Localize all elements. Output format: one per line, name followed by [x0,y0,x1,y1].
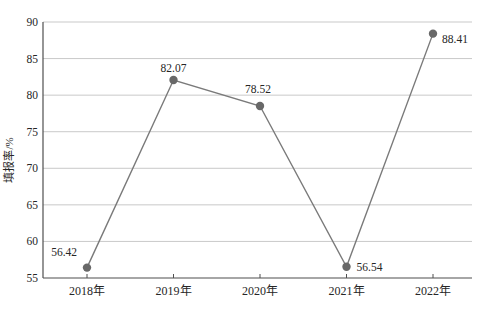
x-tick-label: 2022年 [415,284,451,298]
x-tick-label: 2019年 [156,284,192,298]
x-tick-label: 2018年 [69,284,105,298]
y-tick-label: 65 [27,199,39,211]
data-point [256,102,264,110]
x-tick-label: 2020年 [242,284,278,298]
data-point [169,76,177,84]
y-tick-label: 90 [27,16,39,28]
y-tick-label: 75 [27,126,39,138]
y-tick-label: 85 [27,53,39,65]
data-point [429,29,437,37]
line-chart-figure: 55606570758085902018年2019年2020年2021年2022… [0,0,489,310]
data-point-label: 88.41 [442,33,468,45]
y-tick-label: 60 [27,235,39,247]
line-chart-canvas: 55606570758085902018年2019年2020年2021年2022… [0,0,489,310]
y-tick-label: 80 [27,89,39,101]
data-point-label: 56.42 [51,246,77,258]
data-point [83,263,91,271]
data-point-label: 56.54 [357,261,383,273]
x-tick-label: 2021年 [329,284,365,298]
y-tick-label: 70 [27,162,39,174]
data-point-label: 82.07 [161,62,187,74]
data-point [342,263,350,271]
y-axis-title: 填报率/% [2,137,15,182]
y-tick-label: 55 [27,272,39,284]
chart-background [0,0,489,310]
data-point-label: 78.52 [245,83,271,95]
